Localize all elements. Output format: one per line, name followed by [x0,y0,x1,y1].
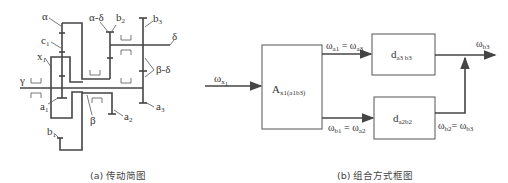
leader-alpha [49,18,61,26]
label-b2: b2 [116,11,126,25]
label-alpha: α [42,10,48,22]
bearing-gamma-bottom [31,93,41,98]
leader-alpha-delta [100,22,109,33]
leader-beta-delta-1 [145,58,154,70]
block-A [262,45,322,129]
bearing-gamma-top [31,78,41,83]
label-a2: a2 [124,110,133,124]
label-delta: δ [172,30,177,42]
leader-b3 [145,21,153,27]
label-x1: x1 [37,50,47,64]
label-top-link: ωa1 = ωa3 [326,40,364,53]
leader-beta [87,95,92,115]
carrier-x1-lower [51,88,83,118]
beta-sleeve-b1 [60,92,82,150]
leader-a3 [145,102,154,107]
leader-c1 [51,42,61,48]
bearing-main-top [121,78,131,83]
label-b1: b1 [47,125,57,139]
return-arrow [435,58,465,113]
label-alpha-delta: α-δ [89,11,104,23]
label-beta-delta: β-δ [156,63,170,75]
beta-arm-a2 [82,93,112,114]
carrier-x1-frame [51,57,83,88]
label-return-link: ωb2= ωb3 [438,120,474,133]
label-b3: b3 [153,12,163,26]
label-a3: a3 [156,100,165,114]
label-beta: β [90,114,96,126]
bearing-delta-top [121,35,131,40]
label-bottom-link: ωb1 = ωa2 [328,122,366,135]
leader-b2 [112,25,116,31]
label-a1: a1 [40,100,49,114]
leader-a2 [114,110,123,116]
leader-a1 [48,98,58,104]
block-diagram: ωx1 Ax1(a1b3) ωa1 = ωa3 da3 b3 ωb1 = ωa2… [205,34,495,181]
caption-b: (b) 组合方式框图 [337,170,413,181]
bearing-beta [92,98,102,103]
transmission-diagram: α c1 x1 γ α-δ b2 b3 δ β-δ a1 β a2 a3 b1 … [19,10,177,181]
label-gamma: γ [19,74,25,86]
label-output: ωb3 [476,38,490,51]
bearing-alpha [90,70,100,75]
label-c1: c1 [41,34,50,48]
diagram-canvas: α c1 x1 γ α-δ b2 b3 δ β-δ a1 β a2 a3 b1 … [0,0,508,183]
bearing-delta-bottom [121,50,131,55]
caption-a: (a) 传动简图 [90,170,146,181]
